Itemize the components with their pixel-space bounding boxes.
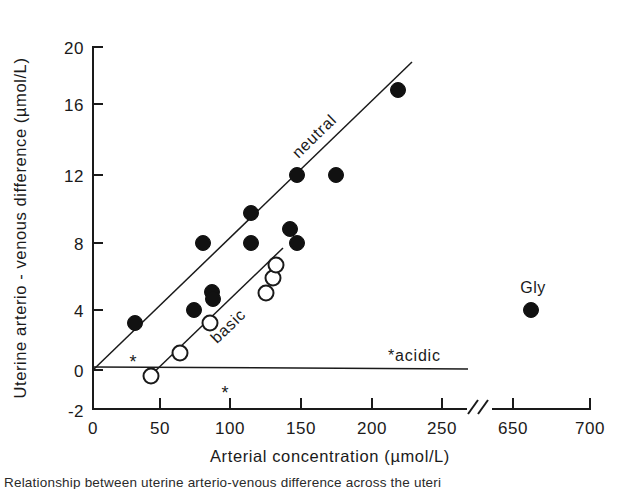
x-tick-label: 200 [357,419,387,438]
annotation-label-gly: Gly [520,279,546,296]
series-basic-points [144,258,284,384]
data-point [144,369,159,384]
axis-break-icon [468,400,488,414]
x-tick-label: 700 [575,419,605,438]
data-point [196,236,211,251]
data-point [244,236,259,251]
y-tick-label: 20 [64,39,84,58]
x-axis [93,398,590,414]
y-tick-label: 8 [74,235,84,254]
data-point [290,168,305,183]
y-axis [93,47,103,409]
figure-caption: Relationship between uterine arterio-ven… [0,475,624,489]
annotation-gly: Gly [520,279,546,318]
data-point [259,286,274,301]
x-tick-label: 50 [150,419,170,438]
x-tick-labels: 0 50 100 150 200 250 650 700 [88,419,605,438]
y-tick-labels: 20 16 12 8 4 0 -2 [64,39,84,421]
x-tick-label: 250 [427,419,457,438]
fit-line-basic [149,248,283,377]
y-tick-label: 0 [74,362,84,381]
data-point-gly [524,303,539,318]
y-tick-label: 12 [64,167,84,186]
y-axis-title: Uterine arterio - venous difference (µmo… [11,58,29,399]
data-point [206,292,221,307]
x-axis-title: Arterial concentration (µmol/L) [210,447,450,465]
data-point [244,206,259,221]
figure-container: 20 16 12 8 4 0 -2 0 50 100 150 200 250 6… [0,0,624,489]
data-point [391,83,406,98]
data-point [283,222,298,237]
data-point [173,346,188,361]
asterisk-icon: * [129,352,136,372]
data-point [329,168,344,183]
data-point [187,303,202,318]
x-tick-label: 0 [88,419,98,438]
scatter-chart: 20 16 12 8 4 0 -2 0 50 100 150 200 250 6… [0,0,624,489]
x-tick-label: 100 [215,419,245,438]
asterisk-icon: * [221,383,228,403]
y-tick-label: 16 [64,96,84,115]
data-point [128,316,143,331]
data-point [203,316,218,331]
x-tick-label: 650 [498,419,528,438]
series-label-neutral: neutral [289,111,340,161]
fit-lines [93,62,468,377]
y-tick-label: -2 [68,402,84,421]
series-label-acidic: *acidic [388,347,441,364]
y-tick-label: 4 [74,302,84,321]
data-point [290,236,305,251]
data-point [269,258,284,273]
x-tick-label: 150 [286,419,316,438]
